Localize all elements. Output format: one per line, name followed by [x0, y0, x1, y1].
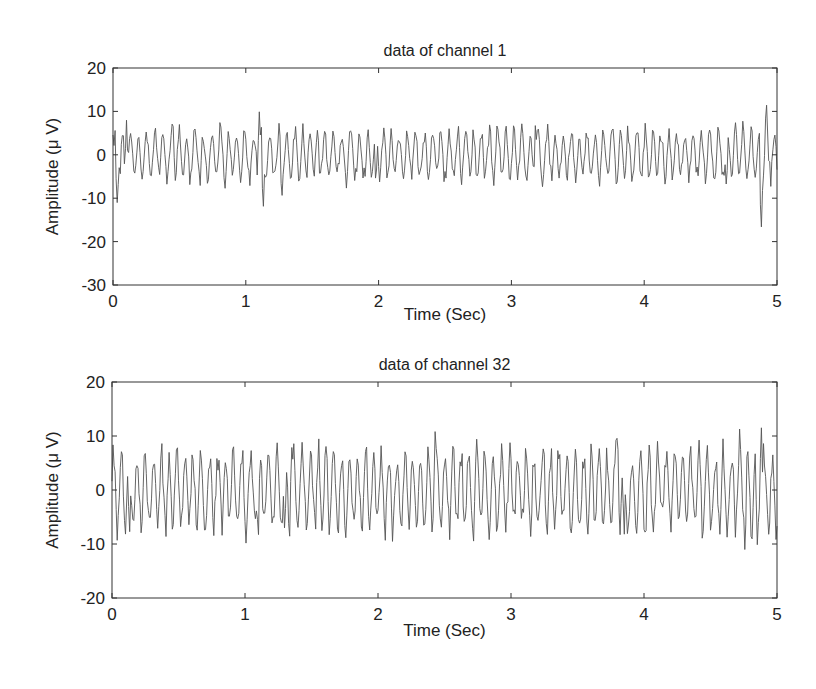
axes-box: [113, 68, 777, 285]
x-tick-label: 1: [241, 292, 250, 311]
x-tick-label: 1: [240, 605, 249, 624]
figure: 01234520100-10-20-30data of channel 1Tim…: [0, 0, 816, 689]
y-tick-label: 10: [86, 427, 105, 446]
y-tick-label: 0: [96, 481, 105, 500]
x-tick-label: 3: [506, 605, 515, 624]
y-tick-label: 10: [87, 102, 106, 121]
y-tick-label: -20: [80, 589, 105, 608]
chart-1: 01234520100-10-20-30data of channel 1Tim…: [43, 42, 782, 324]
chart-title: data of channel 32: [379, 356, 511, 373]
y-tick-label: 0: [97, 146, 106, 165]
y-tick-label: 20: [86, 373, 105, 392]
signal-line: [112, 428, 777, 550]
x-tick-label: 5: [772, 292, 781, 311]
x-tick-label: 0: [107, 605, 116, 624]
y-tick-label: -30: [81, 276, 106, 295]
x-tick-label: 3: [507, 292, 516, 311]
y-axis-label: Amplitude (μ V): [43, 431, 62, 549]
x-tick-label: 2: [373, 605, 382, 624]
signal-line: [113, 105, 777, 227]
chart-title: data of channel 1: [384, 42, 507, 59]
y-tick-label: -10: [81, 189, 106, 208]
chart-2: 01234520100-10-20data of channel 32Time …: [43, 356, 782, 640]
x-tick-label: 4: [639, 605, 648, 624]
y-tick-label: -10: [80, 535, 105, 554]
x-axis-label: Time (Sec): [404, 305, 487, 324]
y-tick-label: 20: [87, 59, 106, 78]
x-tick-label: 5: [772, 605, 781, 624]
y-tick-label: -20: [81, 233, 106, 252]
x-tick-label: 0: [108, 292, 117, 311]
x-tick-label: 4: [639, 292, 648, 311]
y-axis-label: Amplitude (μ V): [43, 118, 62, 236]
x-axis-label: Time (Sec): [403, 621, 486, 640]
x-tick-label: 2: [374, 292, 383, 311]
